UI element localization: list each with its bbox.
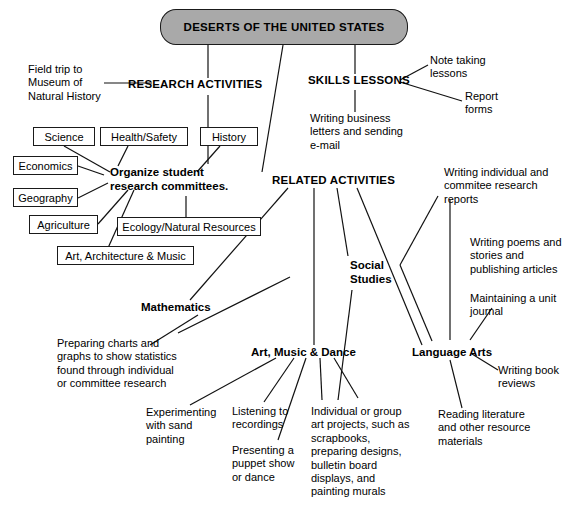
subject-social-studies: Social Studies [350,258,392,286]
connector-related-to-mathematics [190,188,288,300]
connector-geography-to-organize [78,183,108,198]
connector-healthsafety-to-organize [118,146,128,166]
text-writing-business-letters: Writing business letters and sending e-m… [310,112,403,152]
box-history[interactable]: History [200,127,258,146]
connector-amd-to-sandpainting [190,358,276,405]
connector-languagearts-to-reading [450,360,462,408]
diagram-title-box: DESERTS OF THE UNITED STATES [160,9,408,45]
connector-reports-diag-left [400,196,438,265]
text-writing-poems-stories: Writing poems and stories and publishing… [470,236,562,276]
connector-amd-to-groupprojects-b [334,358,358,398]
subject-art-music-dance: Art, Music & Dance [251,345,356,359]
branch-research-activities: RESEARCH ACTIVITIES [128,77,262,91]
connector-amd-to-listening [264,358,294,402]
text-reading-literature-resources: Reading literature and other resource ma… [438,408,530,448]
text-field-trip: Field trip to Museum of Natural History [28,63,101,103]
text-experimenting-sand-painting: Experimenting with sand painting [146,406,216,446]
text-presenting-puppet-show: Presenting a puppet show or dance [232,444,294,484]
connector-diag-left-to-languagearts [400,265,432,341]
text-writing-book-reviews: Writing book reviews [498,364,559,391]
text-preparing-charts-graphs: Preparing charts and graphs to show stat… [57,337,177,391]
text-report-forms: Report forms [465,90,498,117]
box-economics[interactable]: Economics [13,156,78,175]
connector-title-to-related [262,45,283,172]
text-maintaining-unit-journal: Maintaining a unit journal [470,292,556,319]
text-listening-to-recordings: Listening to recordings [232,405,288,432]
connector-amd-to-groupprojects [320,358,322,400]
branch-skills-lessons: SKILLS LESSONS [308,73,410,87]
box-art-architecture-music[interactable]: Art, Architecture & Music [57,246,194,265]
concept-map-diagram: DESERTS OF THE UNITED STATES RESEARCH AC… [0,0,570,514]
subject-language-arts: Language Arts [412,345,492,359]
diagram-title-text: DESERTS OF THE UNITED STATES [184,21,385,33]
box-ecology-natural-resources[interactable]: Ecology/Natural Resources [117,217,261,236]
connector-related-to-socialstudies [337,188,348,256]
text-organize-committees: Organize student research committees. [110,165,228,193]
subject-mathematics: Mathematics [141,300,211,314]
box-health-safety[interactable]: Health/Safety [100,127,188,146]
branch-related-activities: RELATED ACTIVITIES [272,173,395,187]
text-writing-individual-committee-reports: Writing individual and commitee research… [444,166,548,206]
text-note-taking-lessons: Note taking lessons [430,54,486,81]
box-geography[interactable]: Geography [13,188,78,207]
text-individual-group-art-projects: Individual or group art projects, such a… [311,405,409,499]
box-science[interactable]: Science [33,127,95,146]
box-agriculture[interactable]: Agriculture [29,215,98,234]
connector-economics-to-organize [78,166,104,175]
